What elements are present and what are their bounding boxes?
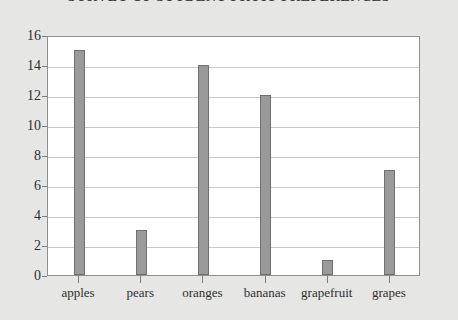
y-axis-tick-mark (42, 216, 47, 217)
y-axis-tick-label: 8 (34, 149, 41, 163)
y-axis-tick-label: 16 (27, 29, 41, 43)
y-axis-tick-label: 10 (27, 119, 41, 133)
bar-grapefruit (322, 260, 333, 275)
y-axis-tick-mark (42, 36, 47, 37)
y-axis-tick-label: 0 (34, 269, 41, 283)
y-axis-tick-label: 4 (34, 209, 41, 223)
y-axis-tick-mark (42, 156, 47, 157)
y-axis-tick-mark (42, 186, 47, 187)
x-axis-tick-mark (140, 276, 141, 283)
x-axis-tick-mark (202, 276, 203, 283)
x-axis-tick-marks (47, 276, 420, 283)
x-axis-tick-label-apples: apples (61, 286, 94, 300)
y-axis-tick-label: 12 (27, 89, 41, 103)
bar-grapes (384, 170, 395, 275)
bars-layer (48, 37, 419, 275)
x-axis-tick-mark (265, 276, 266, 283)
y-axis-tick-marks (42, 36, 48, 276)
x-axis-tick-label-grapefruit: grapefruit (301, 286, 352, 300)
y-axis-tick-label: 6 (34, 179, 41, 193)
y-axis-tick-label: 2 (34, 239, 41, 253)
y-axis-tick-labels: 0246810121416 (0, 36, 41, 276)
bar-bananas (260, 95, 271, 275)
y-axis-tick-mark (42, 126, 47, 127)
x-axis-tick-mark (389, 276, 390, 283)
x-axis-tick-label-pears: pears (127, 286, 154, 300)
bar-chart-figure: SURVEY OF STUDENT FRUIT PREFERENCES 0246… (0, 0, 458, 320)
x-axis-tick-labels: applespearsorangesbananasgrapefruitgrape… (47, 286, 420, 306)
chart-title: SURVEY OF STUDENT FRUIT PREFERENCES (0, 0, 458, 5)
x-axis-tick-mark (327, 276, 328, 283)
y-axis-tick-mark (42, 66, 47, 67)
y-axis-tick-mark (42, 246, 47, 247)
bar-oranges (198, 65, 209, 275)
plot-area (47, 36, 420, 276)
y-axis-tick-label: 14 (27, 59, 41, 73)
x-axis-tick-mark (78, 276, 79, 283)
x-axis-tick-label-bananas: bananas (244, 286, 286, 300)
y-axis-tick-mark (42, 96, 47, 97)
x-axis-tick-label-grapes: grapes (372, 286, 406, 300)
x-axis-tick-label-oranges: oranges (182, 286, 222, 300)
bar-pears (136, 230, 147, 275)
bar-apples (74, 50, 85, 275)
